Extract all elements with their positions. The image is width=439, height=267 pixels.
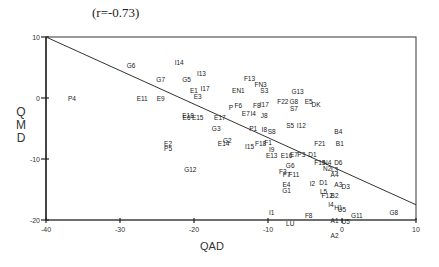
point-label: D1 [308,151,317,158]
point-label: F21 [314,140,326,147]
point-label: I17 [201,85,210,92]
point-label: F18 [255,140,267,147]
point-label: G3 [212,125,221,132]
svg-text:0: 0 [36,95,40,102]
point-label: J8 [261,112,268,119]
point-label: E11 [137,95,148,102]
svg-text:-10: -10 [263,226,273,233]
point-label: G6 [127,62,136,69]
point-label: D3 [342,183,351,190]
point-label: DK [312,101,322,108]
point-label: E14 [218,140,230,147]
point-label: S5 [286,122,294,129]
point-label: G1 [282,187,291,194]
svg-text:10: 10 [32,34,40,41]
point-label: U5 [338,206,347,213]
point-label: A2 [331,232,339,239]
point-label: E15 [192,114,204,121]
svg-text:-40: -40 [41,226,51,233]
svg-text:0: 0 [340,226,344,233]
svg-text:10: 10 [412,226,420,233]
point-label: I8 [262,126,268,133]
point-label: I4 [328,201,334,208]
point-label: B4 [334,128,342,135]
point-label: S7 [290,105,298,112]
point-label: G5 [182,76,191,83]
point-label: G12 [184,166,197,173]
point-label: D6 [334,159,343,166]
axis-ticks: -40-30-20-10010100-10-20 [30,34,420,234]
point-label: P4 [68,95,76,102]
point-label: E6 [183,114,191,121]
point-label: P3 [297,151,305,158]
point-label: E7 [242,110,250,117]
point-label: EN1 [232,87,245,94]
point-label: A1 [331,217,339,224]
point-label: I13 [197,70,206,77]
point-label: I15 [245,143,254,150]
point-label: A4 [331,171,339,178]
point-label: I4 [250,110,256,117]
point-label: G13 [291,88,304,95]
plot-frame [46,37,416,220]
point-label: F22 [277,98,289,105]
point-label: B2 [331,192,339,199]
point-label: P1 [249,125,257,132]
svg-text:-30: -30 [115,226,125,233]
point-label: E9 [157,95,165,102]
point-label: G11 [351,212,363,219]
point-label: E17 [214,114,226,121]
point-label: F11 [289,171,300,178]
point-label: P [229,104,233,111]
point-label: S3 [260,87,268,94]
point-label: F6 [235,102,243,109]
point-label: I14 [175,59,184,66]
point-label: D1 [319,179,328,186]
data-points: P4G6I14G7G5I13E11E9E1I17E3E18E6E15E17G3G… [68,59,399,239]
point-label: I12 [297,122,306,129]
point-label: S8 [268,128,276,135]
scatter-plot: -40-30-20-10010100-10-20 P4G6I14G7G5I13E… [0,0,439,267]
point-label: U5 [342,218,351,225]
point-label: E3 [194,93,202,100]
point-label: P5 [164,145,172,152]
point-label: G8 [290,98,299,105]
point-label: I17 [260,101,269,108]
point-label: F8 [305,212,313,219]
regression-line [46,37,416,205]
svg-text:-10: -10 [30,156,40,163]
point-label: I1 [269,209,275,216]
point-label: G8 [389,209,398,216]
point-label: LU [286,220,295,227]
point-label: I2 [310,180,316,187]
point-label: G7 [156,76,165,83]
point-label: B1 [336,140,344,147]
point-label: E13 [266,152,278,159]
point-label: G6 [286,162,295,169]
svg-text:-20: -20 [189,226,199,233]
svg-text:-20: -20 [30,217,40,224]
